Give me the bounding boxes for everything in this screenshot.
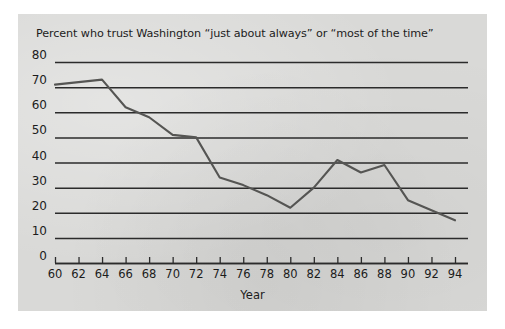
gridlines-group <box>55 63 468 264</box>
y-tick-label: 0 <box>21 249 47 263</box>
y-tick-label: 10 <box>21 224 47 238</box>
x-tick-label: 92 <box>418 267 444 281</box>
x-tick-label: 86 <box>348 267 374 281</box>
y-tick-label: 60 <box>21 98 47 112</box>
x-tick-label: 90 <box>395 267 421 281</box>
x-tick-label: 72 <box>183 267 209 281</box>
x-tick-label: 84 <box>324 267 350 281</box>
x-tick-label: 62 <box>66 267 92 281</box>
x-tick-label: 82 <box>301 267 327 281</box>
y-tick-label: 40 <box>21 149 47 163</box>
x-axis-title: Year <box>0 288 505 302</box>
y-tick-label: 70 <box>21 73 47 87</box>
x-tick-label: 78 <box>254 267 280 281</box>
y-tick-label: 80 <box>21 48 47 62</box>
chart-figure: Percent who trust Washington “just about… <box>0 0 505 329</box>
x-tick-label: 68 <box>136 267 162 281</box>
y-tick-label: 20 <box>21 199 47 213</box>
x-tick-label: 80 <box>277 267 303 281</box>
x-tick-label: 60 <box>42 267 68 281</box>
x-tick-label: 76 <box>230 267 256 281</box>
x-tick-label: 64 <box>89 267 115 281</box>
x-tick-label: 70 <box>160 267 186 281</box>
x-tick-label: 74 <box>207 267 233 281</box>
x-tick-label: 88 <box>371 267 397 281</box>
y-tick-label: 50 <box>21 123 47 137</box>
x-tick-label: 66 <box>113 267 139 281</box>
x-tick-label: 94 <box>442 267 468 281</box>
data-series-line <box>55 80 455 221</box>
y-tick-label: 30 <box>21 174 47 188</box>
x-tick-marks-group <box>56 257 456 263</box>
